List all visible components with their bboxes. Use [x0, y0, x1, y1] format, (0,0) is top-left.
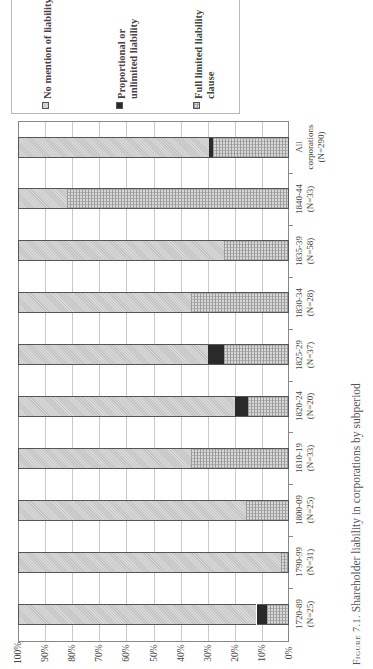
- stacked-bar: [18, 396, 289, 417]
- stacked-bar: [18, 448, 289, 469]
- segment-no-mention: [18, 448, 191, 469]
- percent-tick-label: 70%: [94, 638, 104, 668]
- category-tick: [289, 381, 293, 382]
- percent-tick-label: 100%: [13, 638, 23, 668]
- percent-tick-label: 60%: [121, 638, 131, 668]
- category-label: All corporations (N=290): [294, 122, 327, 172]
- segment-no-mention: [18, 344, 208, 365]
- segment-full-limited: [281, 552, 289, 573]
- stacked-bar: [18, 188, 289, 209]
- category-label: 1790-99 (N=31): [294, 537, 316, 587]
- segment-full-limited: [224, 344, 289, 365]
- percent-tick-label: 50%: [149, 638, 159, 668]
- legend-item-full-limited: Full limited liability clause: [193, 0, 223, 109]
- stacked-bar: [18, 292, 289, 313]
- no-mention-swatch-icon: [42, 102, 49, 109]
- category-label: 1800-09 (N=25): [294, 485, 316, 535]
- segment-no-mention: [18, 604, 256, 625]
- segment-no-mention: [18, 396, 235, 417]
- category-label: 1825-29 (N=37): [294, 330, 316, 380]
- legend-item-proportional: Proportional or unlimited liability: [116, 0, 146, 109]
- category-tick: [289, 173, 293, 174]
- stacked-bar: [18, 344, 289, 365]
- segment-no-mention: [18, 137, 209, 158]
- segment-full-limited: [191, 292, 289, 313]
- segment-full-limited: [267, 604, 289, 625]
- percent-tick-label: 40%: [176, 638, 186, 668]
- category-label: 1840-44 (N=33): [294, 174, 316, 224]
- legend-label: No mention of liability: [42, 0, 54, 99]
- segment-proportional: [257, 604, 268, 625]
- proportional-swatch-icon: [116, 102, 123, 109]
- segment-full-limited: [213, 137, 289, 158]
- segment-proportional: [208, 344, 224, 365]
- segment-no-mention: [18, 240, 224, 261]
- segment-full-limited: [246, 500, 289, 521]
- segment-full-limited: [248, 396, 289, 417]
- stacked-bar: [18, 137, 289, 158]
- chart-legend: No mention of liability Proportional or …: [11, 0, 240, 114]
- category-tick: [289, 225, 293, 226]
- segment-full-limited: [224, 240, 289, 261]
- category-tick: [289, 484, 293, 485]
- segment-proportional: [235, 396, 249, 417]
- percent-tick-label: 0%: [284, 638, 294, 668]
- stacked-bar: [18, 552, 289, 573]
- percent-tick-label: 20%: [230, 638, 240, 668]
- legend-item-no-mention: No mention of liability: [42, 0, 72, 109]
- stacked-bar: [18, 500, 289, 521]
- category-label: 1810-19 (N=33): [294, 433, 316, 483]
- category-label: 1720-89 (N=25): [294, 589, 316, 639]
- category-label: 1830-34 (N=28): [294, 278, 316, 328]
- category-tick: [289, 588, 293, 589]
- figure-caption: Figure 7.1. Shareholder liability in cor…: [350, 383, 362, 665]
- segment-proportional: [209, 137, 213, 158]
- percent-tick-label: 80%: [67, 638, 77, 668]
- stacked-bar: [18, 240, 289, 261]
- stacked-bar: [18, 604, 289, 625]
- percent-tick-label: 90%: [40, 638, 50, 668]
- category-tick: [289, 329, 293, 330]
- category-label: 1820-24 (N=20): [294, 381, 316, 431]
- legend-label: Proportional or unlimited liability: [116, 19, 140, 99]
- full-limited-swatch-icon: [193, 102, 200, 109]
- percent-tick-label: 10%: [257, 638, 267, 668]
- category-tick: [289, 432, 293, 433]
- segment-full-limited: [67, 188, 289, 209]
- caption-text: Shareholder liability in corporations by…: [350, 383, 362, 612]
- percent-tick-label: 30%: [203, 638, 213, 668]
- segment-no-mention: [18, 188, 67, 209]
- legend-label: Full limited liability clause: [193, 10, 217, 99]
- category-tick: [289, 536, 293, 537]
- figure-label: Figure 7.1.: [351, 615, 362, 665]
- segment-no-mention: [18, 552, 281, 573]
- category-label: 1835-39 (N=58): [294, 226, 316, 276]
- category-tick: [289, 277, 293, 278]
- segment-no-mention: [18, 292, 191, 313]
- segment-full-limited: [191, 448, 289, 469]
- segment-no-mention: [18, 500, 246, 521]
